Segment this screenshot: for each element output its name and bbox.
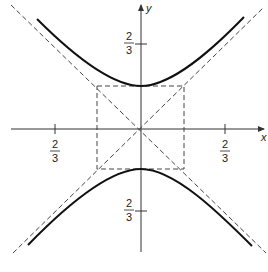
hyperbola-diagram: y x 2 3 2 3 2 3 2 3 — [0, 0, 268, 272]
y-axis-label: y — [145, 2, 153, 14]
fraction-denominator: 3 — [52, 152, 58, 164]
y-tick-label-negative: 2 3 — [124, 197, 134, 223]
fraction-numerator: 2 — [52, 138, 58, 150]
x-tick-label-positive: 2 3 — [220, 138, 230, 164]
fraction-numerator: 2 — [222, 138, 228, 150]
diagram-svg: y x 2 3 2 3 2 3 2 3 — [0, 0, 268, 272]
fraction-denominator: 3 — [222, 152, 228, 164]
fraction-numerator: 2 — [126, 30, 132, 42]
fraction-denominator: 3 — [126, 211, 132, 223]
x-axis-label: x — [260, 131, 267, 143]
x-tick-label-negative: 2 3 — [50, 138, 60, 164]
fraction-denominator: 3 — [126, 44, 132, 56]
fraction-numerator: 2 — [126, 197, 132, 209]
hyperbola-lower-branch — [28, 169, 252, 246]
y-tick-label-positive: 2 3 — [124, 30, 134, 56]
